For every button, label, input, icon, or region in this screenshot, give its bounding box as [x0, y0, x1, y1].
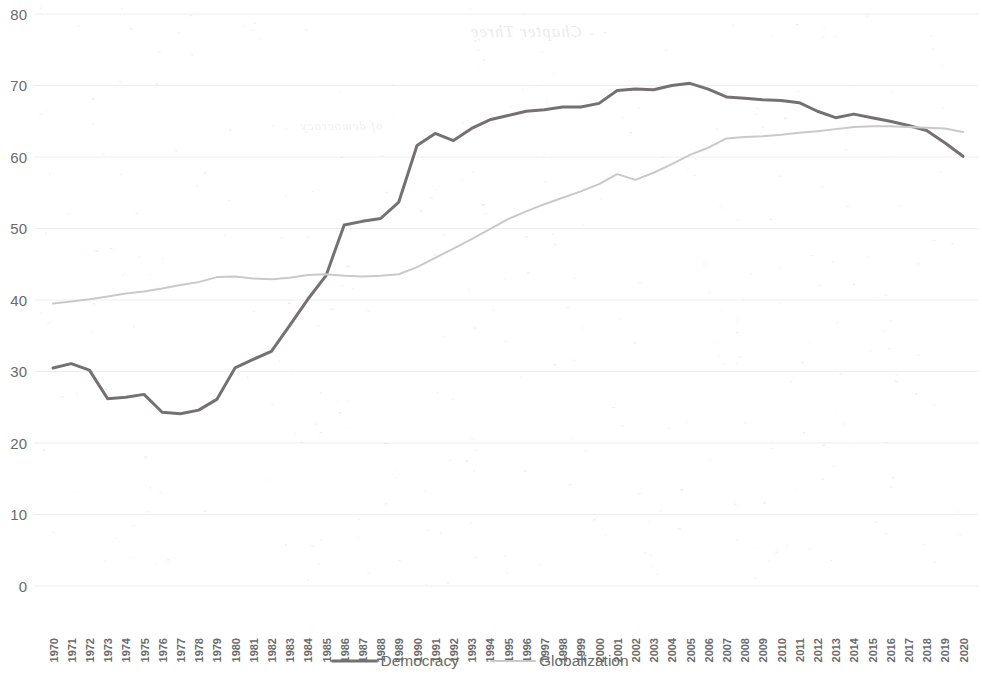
scan-speck — [461, 180, 462, 181]
scan-speck — [78, 25, 80, 26]
scan-speck — [228, 200, 230, 201]
y-axis-tick-label: 0 — [19, 578, 27, 595]
scan-speck — [885, 533, 888, 534]
scan-speck — [743, 299, 744, 300]
scan-speck — [780, 303, 781, 304]
scan-speck — [68, 213, 70, 214]
scan-speck — [337, 400, 338, 401]
scan-speck — [756, 547, 757, 548]
scan-speck — [837, 322, 838, 323]
scan-speck — [510, 106, 511, 108]
scan-speck — [799, 182, 800, 183]
gridlines-group — [34, 14, 978, 586]
scan-speck — [443, 234, 445, 235]
scan-speck — [737, 220, 739, 221]
scan-speck — [196, 186, 198, 187]
scan-speck — [919, 581, 921, 582]
scan-speck — [273, 125, 274, 126]
scan-noise-group — [39, 7, 966, 584]
x-axis-tick-label: 1974 — [120, 637, 132, 662]
scan-speck — [424, 491, 427, 492]
scan-speck — [569, 484, 572, 485]
x-axis-tick-label: 1971 — [66, 638, 78, 662]
scan-speck — [725, 109, 726, 110]
scan-speck — [966, 576, 967, 577]
scan-speck — [585, 450, 587, 451]
scan-speck — [91, 331, 92, 332]
scan-speck — [484, 214, 487, 215]
scan-speck — [583, 224, 584, 226]
scan-speck — [824, 28, 825, 29]
scan-speck — [552, 233, 553, 235]
scan-speck — [650, 566, 651, 567]
scan-speck — [796, 488, 797, 489]
x-axis-tick-label: 2012 — [812, 638, 824, 662]
scan-speck — [271, 404, 274, 405]
scan-speck — [934, 561, 937, 562]
scan-speck — [649, 555, 652, 556]
scan-speck — [176, 150, 177, 152]
scan-speck — [750, 274, 753, 275]
scan-speck — [942, 108, 944, 109]
x-axis-tick-label: 1978 — [193, 638, 205, 662]
y-axis-tick-label: 20 — [10, 435, 27, 452]
scan-speck — [224, 235, 226, 236]
scan-speck — [481, 204, 484, 206]
scan-speck — [393, 117, 394, 118]
scan-speck — [132, 526, 135, 527]
scan-speck — [769, 219, 771, 221]
scan-speck — [618, 323, 619, 324]
scan-speck — [621, 117, 624, 118]
scan-speck — [573, 278, 576, 279]
x-axis-tick-label: 1983 — [284, 638, 296, 662]
scan-speck — [133, 327, 135, 328]
scan-speck — [493, 310, 495, 311]
scan-speck — [386, 192, 388, 193]
scan-speck — [836, 368, 837, 369]
scan-speck — [478, 49, 479, 50]
scan-speck — [135, 213, 138, 214]
scan-speck — [40, 7, 42, 8]
scan-speck — [823, 37, 825, 38]
x-axis-tick-label: 2015 — [867, 638, 879, 662]
scan-speck — [763, 502, 766, 503]
scan-speck — [474, 328, 476, 330]
scan-speck — [440, 533, 442, 534]
scan-speck — [888, 348, 891, 349]
x-axis-tick-label: 2011 — [794, 638, 806, 662]
x-axis-tick-label: 1996 — [521, 638, 533, 662]
scan-speck — [771, 448, 774, 449]
scan-speck — [544, 153, 545, 154]
scan-speck — [832, 466, 835, 467]
scan-speck — [756, 108, 759, 109]
scan-speck — [527, 272, 530, 273]
scan-speck — [701, 67, 702, 68]
scan-speck — [638, 493, 641, 494]
scan-speck — [941, 65, 943, 66]
x-axis-tick-label: 1979 — [211, 638, 223, 662]
scan-speck — [940, 172, 941, 173]
scan-speck — [121, 9, 122, 10]
scan-speck — [621, 301, 622, 302]
scan-speck — [660, 511, 662, 512]
scan-speck — [473, 470, 475, 471]
scan-speck — [93, 303, 95, 305]
scan-speck — [477, 66, 478, 67]
scan-speck — [875, 521, 877, 523]
scan-speck — [471, 439, 474, 440]
scan-speck — [585, 212, 586, 213]
scan-speck — [265, 479, 266, 480]
scan-speck — [347, 401, 349, 402]
scan-speck — [544, 182, 547, 183]
scan-speck — [767, 561, 770, 562]
scan-speck — [817, 292, 818, 293]
scan-speck — [737, 363, 738, 364]
scan-speck — [877, 297, 878, 298]
scan-speck — [247, 377, 248, 379]
scan-speck — [680, 489, 683, 491]
scan-speck — [791, 381, 793, 382]
scan-speck — [355, 217, 357, 218]
scan-speck — [155, 84, 158, 85]
x-axis-tick-label: 2016 — [885, 638, 897, 662]
scan-speck — [116, 538, 118, 539]
